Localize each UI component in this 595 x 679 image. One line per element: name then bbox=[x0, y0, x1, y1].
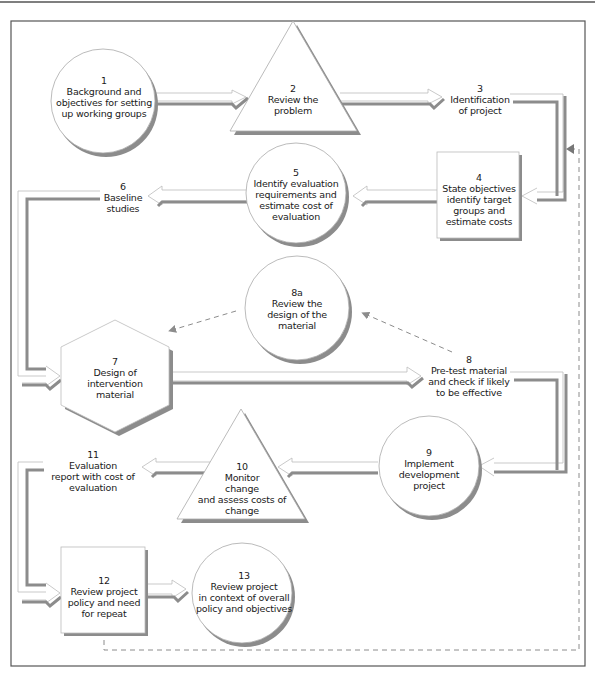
dashed-8a-to-7 bbox=[172, 311, 236, 330]
node-8-label: 8 Pre-test material and check if likely … bbox=[420, 354, 518, 398]
node-13-number: 13 bbox=[186, 570, 302, 581]
node-7-number: 7 bbox=[67, 356, 163, 367]
node-4-label: 4 State objectives identify target group… bbox=[437, 172, 521, 227]
node-12-number: 12 bbox=[59, 575, 149, 586]
node-3-number: 3 bbox=[440, 83, 520, 94]
arrow-4-to-5 bbox=[353, 186, 437, 206]
node-10-label: 10 Monitor change and assess costs of ch… bbox=[186, 461, 298, 516]
node-2-number: 2 bbox=[243, 83, 343, 94]
node-4-number: 4 bbox=[437, 172, 521, 183]
node-1-number: 1 bbox=[48, 75, 160, 86]
dashed-arrowhead bbox=[566, 144, 574, 154]
node-8a-text: Review the design of the material bbox=[250, 298, 344, 331]
node-13-label: 13 Review project in context of overall … bbox=[186, 570, 302, 614]
node-5-number: 5 bbox=[243, 167, 349, 178]
node-9-number: 9 bbox=[381, 447, 477, 458]
node-10-number: 10 bbox=[186, 461, 298, 472]
node-12-label: 12 Review project policy and need for re… bbox=[59, 575, 149, 619]
node-11-text: Evaluation report with cost of evaluatio… bbox=[44, 460, 142, 493]
node-2-triangle bbox=[230, 21, 361, 135]
node-1-text: Background and objectives for setting up… bbox=[48, 86, 160, 119]
node-8a-number: 8a bbox=[250, 287, 344, 298]
arrow-7-to-8 bbox=[170, 367, 423, 387]
node-8a-label: 8a Review the design of the material bbox=[250, 287, 344, 331]
node-9-text: Implement development project bbox=[381, 458, 477, 491]
node-11-label: 11 Evaluation report with cost of evalua… bbox=[44, 449, 142, 493]
node-5-label: 5 Identify evaluation requirements and e… bbox=[243, 167, 349, 222]
node-3-label: 3 Identification of project bbox=[440, 83, 520, 116]
dashed-8-to-8a bbox=[365, 314, 452, 352]
node-3-text: Identification of project bbox=[440, 94, 520, 116]
node-4-text: State objectives identify target groups … bbox=[437, 183, 521, 227]
node-10-text: Monitor change and assess costs of chang… bbox=[186, 472, 298, 516]
node-6-label: 6 Baseline studies bbox=[95, 181, 151, 214]
node-2-text: Review the problem bbox=[243, 94, 343, 116]
node-2-label: 2 Review the problem bbox=[243, 83, 343, 116]
node-6-text: Baseline studies bbox=[95, 192, 151, 214]
node-11-number: 11 bbox=[44, 449, 142, 460]
node-1-label: 1 Background and objectives for setting … bbox=[48, 75, 160, 119]
node-9-label: 9 Implement development project bbox=[381, 447, 477, 491]
arrow-12-to-13 bbox=[146, 580, 188, 601]
arrow-2-to-3 bbox=[340, 89, 444, 108]
node-6-number: 6 bbox=[95, 181, 151, 192]
node-8-text: Pre-test material and check if likely to… bbox=[420, 365, 518, 398]
node-7-text: Design of intervention material bbox=[67, 367, 163, 400]
node-7-label: 7 Design of intervention material bbox=[67, 356, 163, 400]
node-8-number: 8 bbox=[420, 354, 518, 365]
arrow-5-to-6 bbox=[148, 186, 247, 206]
node-12-text: Review project policy and need for repea… bbox=[59, 586, 149, 619]
node-5-text: Identify evaluation requirements and est… bbox=[243, 178, 349, 222]
node-13-text: Review project in context of overall pol… bbox=[186, 581, 302, 614]
arrow-1-to-2 bbox=[153, 90, 248, 108]
